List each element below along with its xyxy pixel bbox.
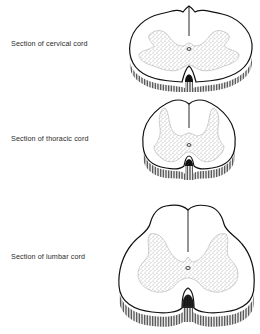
thoracic-ventral-fissure	[185, 159, 193, 166]
thoracic-central-canal	[187, 144, 191, 147]
thoracic-cord-section	[143, 100, 235, 180]
cervical-central-canal	[187, 48, 191, 51]
cervical-cord-section	[130, 6, 252, 92]
lumbar-central-canal	[186, 267, 190, 270]
spinal-cord-sections-diagram	[0, 0, 260, 334]
cervical-ventral-fissure	[185, 75, 193, 83]
lumbar-cord-section	[119, 205, 254, 327]
